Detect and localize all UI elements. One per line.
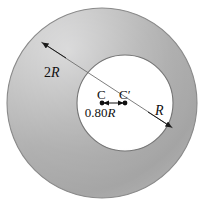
label-outer-radius-number: 2 — [44, 65, 51, 80]
label-inner-radius: R — [154, 103, 164, 118]
label-center-c: C — [97, 87, 106, 102]
label-offset-symbol: R — [106, 105, 115, 120]
label-outer-radius-symbol: R — [50, 65, 60, 80]
label-offset-number: 0.80 — [85, 105, 108, 120]
label-center-offset: 0.80R — [85, 105, 116, 120]
annulus-diagram: 2R R C C′ 0.80R — [0, 0, 212, 203]
label-center-c-prime: C′ — [119, 87, 131, 102]
label-outer-radius: 2R — [44, 65, 60, 80]
figure-container: 2R R C C′ 0.80R — [0, 0, 212, 203]
